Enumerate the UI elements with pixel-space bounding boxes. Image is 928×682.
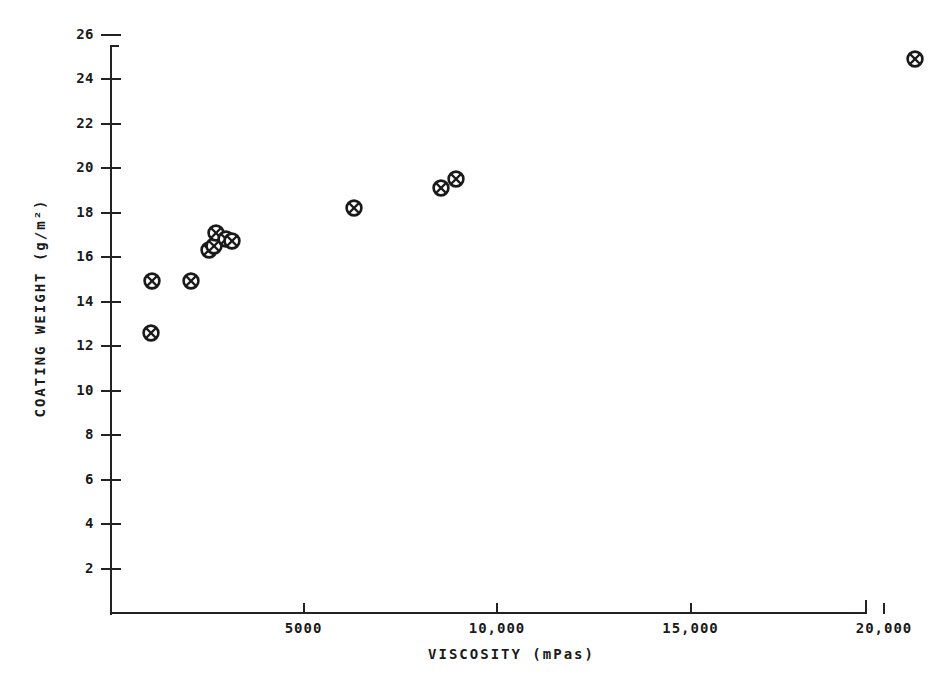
y-axis-title: COATING WEIGHT (g/m²) (32, 98, 48, 518)
y-axis-tick-label: 16 (48, 249, 94, 263)
y-axis-tick-label-text: 6 (54, 472, 94, 486)
y-axis-tick-label-text: 12 (54, 338, 94, 352)
x-axis-tick-label-text: 15,000 (631, 620, 751, 636)
x-axis-end-cap (865, 600, 867, 614)
y-axis-tick (101, 256, 121, 258)
y-axis-tick (101, 345, 121, 347)
y-axis-tick-label-text: 20 (54, 160, 94, 174)
x-axis-tick-label: 10,000 (437, 620, 557, 638)
y-axis-tick (101, 212, 121, 214)
y-axis-tick-label: 24 (48, 71, 94, 85)
y-axis-tick-label-text: 18 (54, 205, 94, 219)
x-axis-line (110, 612, 867, 614)
y-axis-tick (101, 123, 121, 125)
y-axis-tick (101, 479, 121, 481)
y-axis-tick-label-text: 16 (54, 249, 94, 263)
y-axis-tick-label: 18 (48, 205, 94, 219)
y-axis-tick-label: 4 (48, 516, 94, 530)
y-axis-tick-label-text: 4 (54, 516, 94, 530)
y-axis-tick-label: 22 (48, 116, 94, 130)
data-point-marker (344, 198, 364, 218)
x-axis-tick-label-text: 10,000 (437, 620, 557, 636)
y-axis-tick (101, 78, 121, 80)
y-axis-tick-label: 10 (48, 383, 94, 397)
y-axis-tick (101, 301, 121, 303)
y-axis-tick (101, 434, 121, 436)
y-axis-tick-label-text: 8 (54, 427, 94, 441)
y-axis-tick (101, 167, 121, 169)
data-point-marker (905, 49, 925, 69)
x-axis-tick (883, 603, 885, 614)
x-axis-title: VISCOSITY (mPas) (0, 646, 893, 662)
data-point-marker (222, 231, 242, 251)
x-axis-tick-label-text: 5000 (244, 620, 364, 636)
y-axis-tick-label-text: 14 (54, 294, 94, 308)
y-axis-tick (101, 34, 121, 36)
y-axis-tick-label: 8 (48, 427, 94, 441)
y-axis-line (110, 45, 112, 615)
y-axis-tick-label-text: 2 (54, 561, 94, 575)
x-axis-tick (303, 603, 305, 614)
y-axis-tick-label: 14 (48, 294, 94, 308)
y-axis-tick-label: 12 (48, 338, 94, 352)
data-point-marker (142, 271, 162, 291)
x-axis-tick (496, 603, 498, 614)
y-axis-tick-label: 6 (48, 472, 94, 486)
y-axis-tick-label-text: 26 (54, 27, 94, 41)
x-axis-tick-label: 20,000 (824, 620, 928, 638)
data-point-marker (181, 271, 201, 291)
x-axis-tick-label: 15,000 (631, 620, 751, 638)
y-axis-top-cap (110, 45, 119, 47)
x-axis-tick-label-text: 20,000 (824, 620, 928, 636)
y-axis-tick-label: 26 (48, 27, 94, 41)
y-axis-tick-label-text: 10 (54, 383, 94, 397)
data-point-marker (141, 323, 161, 343)
y-axis-tick-label-text: 22 (54, 116, 94, 130)
y-axis-tick-label-text: 24 (54, 71, 94, 85)
y-axis-tick (101, 568, 121, 570)
y-axis-tick (101, 390, 121, 392)
y-axis-tick (101, 523, 121, 525)
y-axis-tick-label: 20 (48, 160, 94, 174)
data-point-marker (446, 169, 466, 189)
y-axis-tick-label: 2 (48, 561, 94, 575)
x-axis-tick (690, 603, 692, 614)
x-axis-tick-label: 5000 (244, 620, 364, 638)
